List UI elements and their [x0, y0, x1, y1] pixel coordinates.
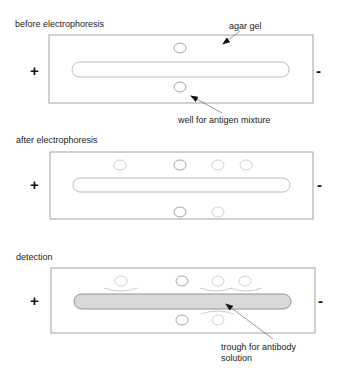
antigen-spot — [212, 207, 224, 217]
label-trough-line2: solution — [221, 353, 252, 363]
label-trough-line1: trough for antibody — [221, 342, 297, 352]
antigen-spot — [240, 160, 252, 170]
panel-title-detection: detection — [16, 252, 53, 262]
antigen-spot — [115, 276, 127, 286]
antigen-spot — [212, 276, 224, 286]
antigen-spot — [239, 276, 251, 286]
antigen-well-bottom — [176, 315, 188, 325]
anode-plus-sign: + — [30, 292, 39, 309]
antigen-spot — [114, 160, 126, 170]
anode-plus-sign: + — [30, 176, 39, 193]
trough-empty — [73, 178, 290, 192]
antigen-spot — [212, 315, 224, 325]
anode-plus-sign: + — [30, 62, 39, 79]
panel-detection: detection + - trough for antibody soluti… — [16, 252, 323, 363]
immunoelectrophoresis-diagram: before electrophoresis + - agar gel well… — [0, 0, 337, 371]
cathode-minus-sign: - — [316, 62, 321, 79]
panel-title-before: before electrophoresis — [15, 19, 105, 29]
antigen-well-bottom — [174, 82, 186, 92]
panel-title-after: after electrophoresis — [16, 135, 98, 145]
cathode-minus-sign: - — [318, 292, 323, 309]
antigen-well-top — [176, 276, 188, 286]
trough-antibody-filled — [74, 294, 291, 309]
cathode-minus-sign: - — [317, 176, 322, 193]
antigen-well-bottom — [174, 207, 186, 217]
panel-before-electrophoresis: before electrophoresis + - agar gel well… — [15, 19, 321, 125]
label-antigen-well: well for antigen mixture — [177, 115, 271, 125]
antigen-well-top — [174, 160, 186, 170]
panel-after-electrophoresis: after electrophoresis + - — [16, 135, 322, 219]
trough-empty — [72, 62, 289, 77]
antigen-well-top — [174, 43, 186, 53]
label-agar-gel: agar gel — [229, 21, 262, 31]
antigen-spot — [212, 160, 224, 170]
